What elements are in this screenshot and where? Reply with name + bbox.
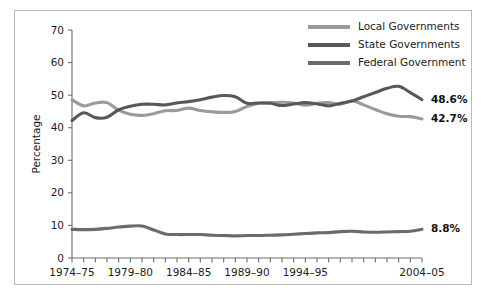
series-lines [72, 86, 422, 236]
series-line-federal-government [72, 226, 422, 236]
y-axis-tick-labels: 010203040506070 [51, 24, 64, 264]
x-tick-label-1989-90: 1989–90 [224, 266, 269, 278]
x-tick-label-1984-85: 1984–85 [166, 266, 211, 278]
x-tick-label-1979-80: 1979–80 [108, 266, 153, 278]
chart-legend: Local GovernmentsState GovernmentsFedera… [308, 20, 466, 68]
legend-label-local-governments: Local Governments [358, 20, 460, 32]
y-tick-label-50: 50 [51, 89, 64, 101]
series-line-state-governments [72, 86, 422, 120]
end-label-federal-government: 8.8% [431, 222, 461, 234]
y-tick-label-30: 30 [51, 154, 64, 166]
x-tick-label-1994-95: 1994–95 [283, 266, 328, 278]
y-axis-ticks [68, 30, 72, 258]
x-tick-label-2004-05: 2004–05 [399, 266, 444, 278]
y-tick-label-70: 70 [51, 24, 64, 36]
y-tick-label-10: 10 [51, 219, 64, 231]
line-chart: 010203040506070 1974–751979–801984–85198… [0, 0, 487, 302]
end-label-local-governments: 42.7% [431, 112, 468, 124]
y-tick-label-0: 0 [57, 252, 64, 264]
end-label-state-governments: 48.6% [431, 93, 468, 105]
series-end-labels: 42.7%48.6%8.8% [431, 93, 468, 235]
y-axis-title: Percentage [30, 114, 42, 173]
y-tick-label-60: 60 [51, 56, 64, 68]
y-tick-label-40: 40 [51, 121, 64, 133]
y-tick-label-20: 20 [51, 186, 64, 198]
x-axis-tick-labels: 1974–751979–801984–851989–901994–952004–… [49, 266, 444, 278]
x-tick-label-1974-75: 1974–75 [49, 266, 94, 278]
legend-label-state-governments: State Governments [358, 38, 460, 50]
x-axis-ticks [72, 258, 422, 263]
legend-label-federal-government: Federal Government [358, 56, 466, 68]
chart-svg: 010203040506070 1974–751979–801984–85198… [0, 0, 487, 302]
